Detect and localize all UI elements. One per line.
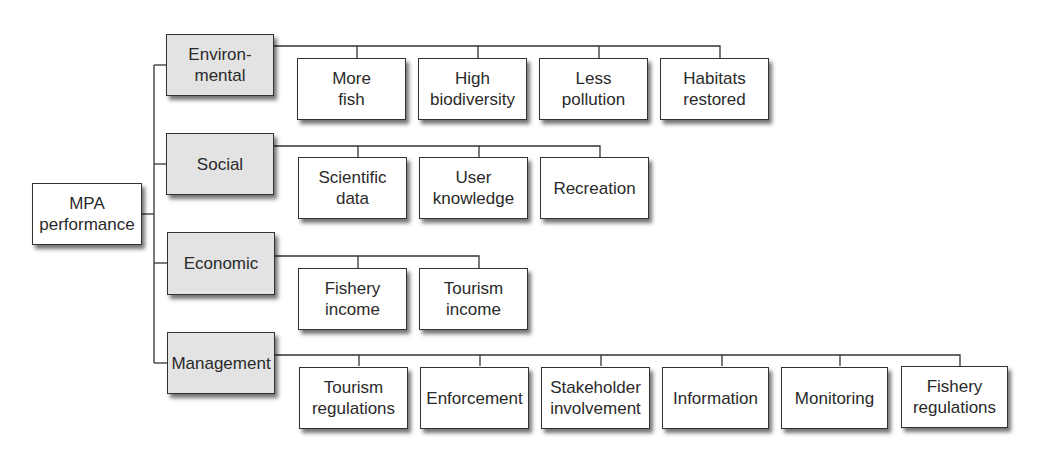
category-social: Social	[166, 133, 274, 195]
category-management: Management	[167, 332, 275, 394]
leaf-monitoring: Monitoring	[781, 367, 888, 429]
leaf-less-pollution: Less pollution	[539, 58, 648, 120]
leaf-information: Information	[662, 367, 769, 429]
leaf-high-biodiversity: High biodiversity	[418, 58, 527, 120]
leaf-tourism-income: Tourism income	[419, 268, 528, 330]
leaf-fishery-regulations: Fishery regulations	[901, 366, 1008, 428]
leaf-scientific-data: Scientific data	[298, 157, 407, 219]
root-node-mpa-performance: MPA performance	[32, 183, 142, 245]
category-environmental: Environ- mental	[166, 34, 274, 96]
leaf-recreation: Recreation	[540, 157, 649, 219]
mpa-performance-diagram: MPA performance Environ- mental Social E…	[0, 0, 1039, 460]
leaf-more-fish: More fish	[297, 58, 406, 120]
leaf-habitats-restored: Habitats restored	[660, 58, 769, 120]
leaf-enforcement: Enforcement	[420, 367, 529, 429]
leaf-stakeholder-involvement: Stakeholder involvement	[541, 367, 650, 429]
leaf-tourism-regulations: Tourism regulations	[299, 367, 408, 429]
leaf-fishery-income: Fishery income	[298, 268, 407, 330]
category-economic: Economic	[167, 232, 275, 295]
leaf-user-knowledge: User knowledge	[419, 157, 528, 219]
